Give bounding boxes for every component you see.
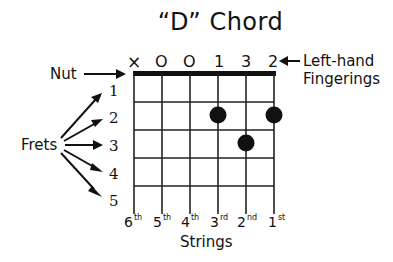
muted-string-marker-6th: × xyxy=(127,52,141,72)
string-label-2nd: 2nd xyxy=(237,213,257,230)
fret-number-1: 1 xyxy=(109,82,119,100)
finger-dot-3rd-string-fret2 xyxy=(210,107,227,124)
string-label-6th: 6th xyxy=(124,213,142,230)
finger-dot-1st-string-fret2 xyxy=(266,107,283,124)
fret-number-4: 4 xyxy=(109,165,119,183)
frets-label: Frets xyxy=(21,136,57,154)
nut-arrow-icon xyxy=(84,69,126,79)
nut-label: Nut xyxy=(50,65,77,83)
finger-number-2nd-string: 3 xyxy=(241,52,251,71)
open-string-marker-4th: O xyxy=(183,52,196,71)
string-label-4th: 4th xyxy=(181,213,199,230)
fingerings-arrow-icon xyxy=(279,56,300,66)
string-label-5th: 5th xyxy=(153,213,171,230)
string-label-1st: 1st xyxy=(268,213,285,230)
fingerings-label-line1: Left-hand xyxy=(303,52,374,70)
nut-bar xyxy=(133,71,276,76)
fingerings-label-line2: Fingerings xyxy=(303,70,380,88)
fret-number-2: 2 xyxy=(109,109,119,127)
string-label-3rd: 3rd xyxy=(210,213,228,230)
fret-arrows-icon xyxy=(61,99,96,189)
strings-label: Strings xyxy=(180,233,233,251)
fret-number-5: 5 xyxy=(109,192,119,210)
finger-number-3rd-string: 1 xyxy=(214,52,224,71)
finger-number-1st-string: 2 xyxy=(268,52,278,71)
open-string-marker-5th: O xyxy=(155,52,168,71)
finger-dot-2nd-string-fret3 xyxy=(238,135,255,152)
fret-number-3: 3 xyxy=(109,137,119,155)
